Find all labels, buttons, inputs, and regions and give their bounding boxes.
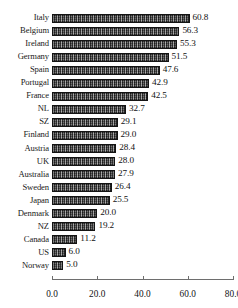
bar-row: NZ19.2 (0, 221, 238, 234)
bar-fill (52, 183, 112, 192)
bar-fill (52, 209, 97, 218)
value-label: 60.8 (193, 12, 209, 23)
bar (52, 105, 126, 114)
bar-row: NL32.7 (0, 103, 238, 116)
bar-fill (52, 131, 118, 140)
category-label: Austria (0, 143, 49, 154)
plot-area: Italy60.8Belgium56.3Ireland55.3Germany51… (0, 0, 238, 282)
value-label: 6.0 (69, 246, 80, 257)
bar (52, 27, 179, 36)
x-axis-tick-label: 20.0 (80, 288, 114, 300)
bar-fill (52, 53, 169, 62)
x-axis-tick (143, 276, 144, 280)
category-label: Australia (0, 169, 49, 180)
bar-fill (52, 27, 179, 36)
bar-fill (52, 222, 95, 231)
bar-row: Australia27.9 (0, 169, 238, 182)
value-label: 47.6 (163, 64, 179, 75)
bar-row: Portugal42.9 (0, 77, 238, 90)
category-label: Belgium (0, 25, 49, 36)
value-label: 42.9 (152, 77, 168, 88)
bar (52, 118, 118, 127)
bar (52, 79, 149, 88)
category-label: NL (0, 103, 49, 114)
bar (52, 131, 118, 140)
bar (52, 183, 112, 192)
bar-row: Ireland55.3 (0, 38, 238, 51)
bar-fill (52, 79, 149, 88)
value-label: 55.3 (180, 38, 196, 49)
category-label: Norway (0, 260, 49, 271)
x-axis-tick (233, 276, 234, 280)
category-label: Finland (0, 129, 49, 140)
bar-row: Austria28.4 (0, 143, 238, 156)
value-label: 5.0 (66, 259, 77, 270)
value-label: 11.2 (80, 233, 95, 244)
bar (52, 170, 115, 179)
bar-fill (52, 248, 66, 257)
value-label: 42.5 (151, 90, 167, 101)
bar-row: Denmark20.0 (0, 208, 238, 221)
bar-fill (52, 235, 77, 244)
value-label: 28.0 (118, 155, 134, 166)
bar-row: Norway5.0 (0, 260, 238, 273)
bar (52, 40, 177, 49)
bar-row: France42.5 (0, 90, 238, 103)
x-axis-tick (188, 276, 189, 280)
bar-row: Germany51.5 (0, 51, 238, 64)
bar-fill (52, 261, 63, 270)
value-label: 25.5 (113, 194, 129, 205)
bar-fill (52, 92, 148, 101)
category-label: Sweden (0, 182, 49, 193)
category-label: US (0, 247, 49, 258)
bar-row: US6.0 (0, 247, 238, 260)
bar-row: SZ29.1 (0, 116, 238, 129)
category-label: NZ (0, 221, 49, 232)
x-axis-tick (52, 276, 53, 280)
bar (52, 235, 77, 244)
bar-row: Italy60.8 (0, 12, 238, 25)
bar-fill (52, 196, 110, 205)
value-label: 27.9 (118, 168, 134, 179)
bar-fill (52, 118, 118, 127)
bar-row: Finland29.0 (0, 129, 238, 142)
category-label: Italy (0, 12, 49, 23)
category-label: France (0, 90, 49, 101)
bar-row: UK28.0 (0, 156, 238, 169)
bar-row: Sweden26.4 (0, 182, 238, 195)
bar-fill (52, 144, 116, 153)
bar (52, 53, 169, 62)
category-label: Denmark (0, 208, 49, 219)
category-label: UK (0, 156, 49, 167)
bar-fill (52, 40, 177, 49)
bar (52, 92, 148, 101)
value-label: 19.2 (98, 220, 114, 231)
value-label: 32.7 (129, 103, 145, 114)
bar (52, 261, 63, 270)
value-label: 28.4 (119, 142, 135, 153)
value-label: 26.4 (115, 181, 131, 192)
value-label: 20.0 (100, 207, 116, 218)
category-label: Portugal (0, 77, 49, 88)
bar (52, 144, 116, 153)
category-label: SZ (0, 116, 49, 127)
bar-fill (52, 66, 160, 75)
bar-row: Canada11.2 (0, 234, 238, 247)
x-axis-tick-label: 0.0 (35, 288, 69, 300)
bar-row: Spain47.6 (0, 64, 238, 77)
category-label: Japan (0, 195, 49, 206)
bar-fill (52, 14, 190, 23)
x-axis-tick-label: 60.0 (171, 288, 205, 300)
bar-chart: Italy60.8Belgium56.3Ireland55.3Germany51… (0, 0, 238, 308)
bar-fill (52, 105, 126, 114)
bar (52, 157, 115, 166)
bar-fill (52, 157, 115, 166)
bar (52, 66, 160, 75)
bar (52, 222, 95, 231)
value-label: 29.0 (121, 129, 137, 140)
value-label: 51.5 (172, 51, 188, 62)
bar (52, 14, 190, 23)
x-axis-tick-label: 40.0 (126, 288, 160, 300)
value-label: 29.1 (121, 116, 137, 127)
bar-fill (52, 170, 115, 179)
